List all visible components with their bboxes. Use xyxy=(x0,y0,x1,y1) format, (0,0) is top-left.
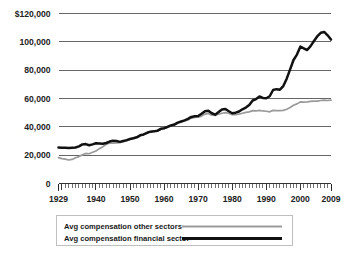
legend-item-label: Avg compensation financial sector xyxy=(64,234,190,243)
x-axis-tick-label: 2000 xyxy=(291,194,310,204)
chart-container: 020,00040,00060,00080,000100,000$120,000… xyxy=(0,0,354,256)
x-axis-tick-label: 1980 xyxy=(223,194,242,204)
legend-item-label: Avg compensation other sectors xyxy=(64,222,182,231)
x-axis-tick-label: 1929 xyxy=(49,194,68,204)
y-axis-tick-label: $120,000 xyxy=(15,9,51,19)
x-axis-tick-label: 1940 xyxy=(86,194,105,204)
x-axis-tick-label: 1970 xyxy=(189,194,208,204)
x-axis-tick-label: 1990 xyxy=(257,194,276,204)
y-axis-tick-label: 0 xyxy=(46,179,51,189)
x-axis xyxy=(59,184,332,191)
x-axis-tick-label: 1950 xyxy=(120,194,139,204)
y-axis-tick-label: 40,000 xyxy=(24,122,51,132)
data-series xyxy=(59,32,332,160)
x-axis-tick-labels: 192919401950196019701980199020002009 xyxy=(49,194,341,204)
x-axis-tick-label: 1960 xyxy=(155,194,174,204)
y-axis-tick-label: 60,000 xyxy=(24,94,51,104)
y-axis-tick-label: 20,000 xyxy=(24,150,51,160)
gridlines xyxy=(59,14,332,156)
chart-legend: Avg compensation other sectorsAvg compen… xyxy=(56,216,292,246)
y-axis-tick-labels: 020,00040,00060,00080,000100,000$120,000 xyxy=(15,9,51,189)
series-line-financial-sector xyxy=(59,32,332,148)
y-axis-tick-label: 100,000 xyxy=(19,37,50,47)
series-line-other-sectors xyxy=(59,100,332,160)
y-axis-tick-label: 80,000 xyxy=(24,65,51,75)
x-axis-tick-label: 2009 xyxy=(321,194,340,204)
compensation-line-chart: 020,00040,00060,00080,000100,000$120,000… xyxy=(0,0,354,256)
